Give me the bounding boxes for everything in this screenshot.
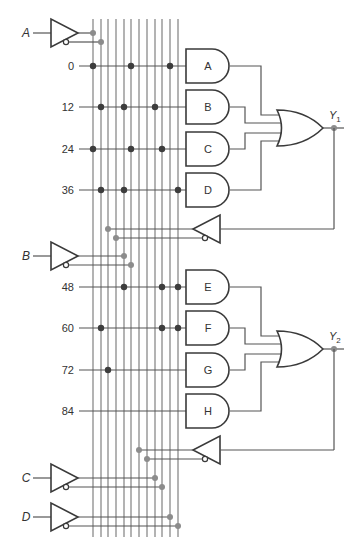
row-label: 36	[62, 184, 74, 196]
row-label: 12	[62, 101, 74, 113]
and-gate-h: H	[186, 394, 229, 428]
output-label-y2: Y2	[329, 330, 341, 345]
row-label: 48	[62, 281, 74, 293]
feedback-buffer-y2	[136, 436, 334, 464]
connection-dot	[175, 284, 181, 290]
connection-dot	[159, 284, 165, 290]
input-label: D	[22, 510, 31, 524]
and-gate-f: F	[186, 311, 229, 345]
and-gate-label: B	[204, 101, 211, 113]
connection-dot	[152, 104, 158, 110]
and-gate-e: E	[186, 270, 229, 304]
and-gate-label: D	[204, 184, 212, 196]
connection-dot	[128, 63, 134, 69]
row-label: 84	[62, 405, 74, 417]
connection-dot	[128, 146, 134, 152]
and-gate-d: D	[186, 173, 229, 207]
connection-dot	[121, 284, 127, 290]
row-label: 72	[62, 364, 74, 376]
or-gate-shape-icon	[277, 110, 323, 146]
connection-dot	[121, 104, 127, 110]
input-label: A	[21, 26, 30, 40]
or-gates: Y1Y2	[230, 66, 344, 450]
connection-dot	[105, 367, 111, 373]
pla-diagram: ABCD 012243648607284 ABCDEFGH Y1Y2	[0, 0, 360, 554]
and-gate-b: B	[186, 90, 229, 124]
connection-dot	[90, 63, 96, 69]
input-label: C	[22, 471, 31, 485]
and-gate-c: C	[186, 132, 229, 166]
inverter-bubble-icon	[63, 523, 68, 528]
product-row-0: 0	[68, 60, 186, 72]
output-label-y1: Y1	[329, 109, 341, 124]
or-gate-y1: Y1	[230, 66, 344, 229]
and-gate-a: A	[186, 49, 229, 83]
connection-dot	[167, 63, 173, 69]
connection-dot	[98, 325, 104, 331]
inverter-bubble-icon	[63, 262, 68, 267]
connection-dot	[175, 325, 181, 331]
inverter-bubble-icon	[202, 235, 207, 240]
input-buffer-b: B	[22, 242, 134, 270]
connection-dot	[159, 146, 165, 152]
inverter-bubble-icon	[63, 39, 68, 44]
input-buffer-a: A	[21, 19, 104, 47]
and-gate-label: C	[204, 143, 212, 155]
and-gate-label: H	[204, 405, 212, 417]
inverter-bubble-icon	[63, 484, 68, 489]
and-gate-label: A	[204, 60, 212, 72]
and-gate-g: G	[186, 353, 229, 387]
row-label: 60	[62, 322, 74, 334]
input-label: B	[22, 249, 30, 263]
or-gate-y2: Y2	[230, 287, 344, 450]
and-gate-label: G	[204, 364, 213, 376]
row-label: 0	[68, 60, 74, 72]
or-gate-shape-icon	[277, 331, 323, 367]
connection-dot	[90, 146, 96, 152]
connection-dot	[121, 187, 127, 193]
and-gate-label: E	[204, 281, 211, 293]
connection-dot	[98, 104, 104, 110]
row-label: 24	[62, 143, 74, 155]
connection-dot	[159, 325, 165, 331]
connection-dot	[175, 187, 181, 193]
inverter-bubble-icon	[202, 456, 207, 461]
and-gate-label: F	[205, 322, 212, 334]
connection-dot	[98, 187, 104, 193]
